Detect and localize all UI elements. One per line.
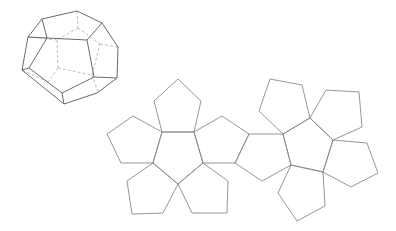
- hidden-edge: [57, 40, 58, 68]
- hidden-edge: [77, 11, 78, 28]
- dodecahedron-front-face: [29, 38, 94, 93]
- visible-edge: [28, 37, 47, 38]
- net-face-right-right: [323, 140, 378, 187]
- net-face-left-bottom-left: [127, 163, 178, 214]
- net-face-right-bottom: [278, 165, 325, 221]
- visible-edge: [22, 68, 29, 70]
- hidden-edge: [100, 44, 118, 47]
- net-face-left-bottom-right: [178, 163, 228, 213]
- net-face-right-top-right: [310, 90, 362, 140]
- hidden-edges: [22, 11, 118, 92]
- net-face-right-top-left: [259, 79, 310, 134]
- net-face-left-center: [153, 132, 203, 184]
- net-face-left-left: [107, 116, 162, 163]
- hidden-edge: [48, 68, 58, 82]
- net-face-bridge: [235, 134, 291, 181]
- hidden-edge: [57, 28, 78, 40]
- dodecahedron-diagram: [0, 0, 396, 231]
- hidden-edge: [92, 44, 100, 75]
- net-face-left-right: [194, 116, 249, 163]
- hidden-edge: [78, 28, 100, 44]
- dodecahedron-net: [107, 79, 378, 221]
- hidden-edge: [58, 68, 92, 75]
- visible-edge: [94, 77, 117, 78]
- net-face-left-top: [154, 79, 201, 132]
- visible-edges: [22, 19, 117, 104]
- dodecahedron-3d-view: [22, 11, 118, 104]
- visible-edge: [42, 19, 47, 38]
- dodecahedron-outline: [22, 11, 118, 104]
- visible-edge: [87, 23, 102, 40]
